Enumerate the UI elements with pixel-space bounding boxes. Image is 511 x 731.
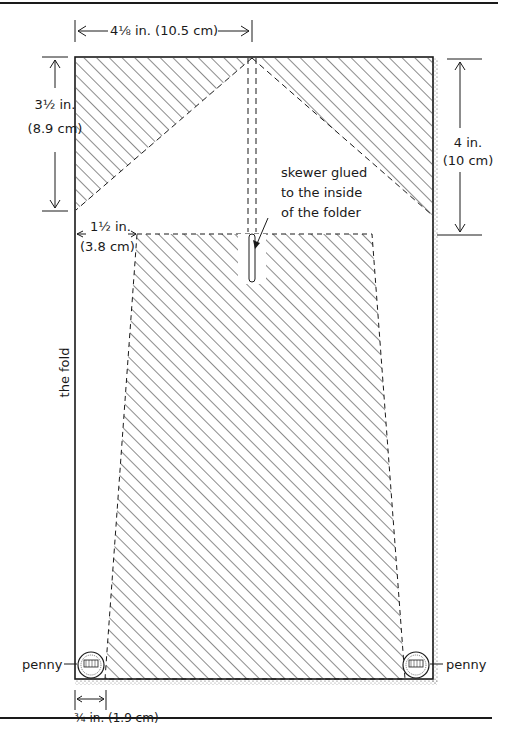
bottom-edge-stipple: [75, 679, 437, 685]
penny-right-label: penny: [446, 656, 486, 673]
inset-label-line1: 1½ in.: [90, 218, 131, 235]
penny-right-icon: [403, 652, 429, 678]
right-height-label-line1: 4 in.: [438, 134, 498, 151]
inset-label-line2: (3.8 cm): [80, 238, 135, 255]
skewer-label-line3: of the folder: [281, 204, 361, 221]
left-height-label-line2: (8.9 cm): [20, 120, 90, 137]
penny-left-icon: [78, 652, 104, 678]
skewer-label-line1: skewer glued: [281, 164, 367, 181]
right-height-label-line2: (10 cm): [435, 152, 501, 169]
skewer-label-line2: to the inside: [281, 184, 362, 201]
lower-panel: [105, 234, 405, 679]
fold-label: the fold: [56, 343, 73, 403]
top-width-label: 4⅛ in. (10.5 cm): [110, 22, 218, 39]
bottom-inset-label: ¾ in. (1.9 cm): [74, 710, 159, 727]
penny-left-label: penny: [22, 656, 62, 673]
left-height-label-line1: 3½ in.: [20, 96, 90, 113]
